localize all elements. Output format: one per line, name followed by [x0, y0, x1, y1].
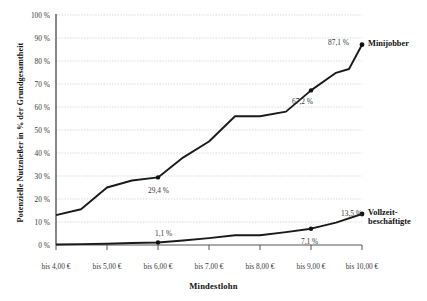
point-label-minijobber-67-2: 67,2 % — [292, 97, 313, 106]
series-label-vollzeit-line1: Vollzeit- — [368, 208, 397, 217]
point-label-minijobber-29-4: 29,4 % — [148, 186, 169, 195]
data-point-vollzeit-7-1 — [309, 227, 313, 231]
point-label-vollzeit-13-5: 13,5 % — [341, 209, 362, 218]
chart-container: Potenzielle Nutznießer in % der Grundges… — [0, 0, 427, 301]
data-point-vollzeit-1-1 — [156, 240, 160, 244]
x-axis-title: Mindestlohn — [0, 281, 427, 291]
point-label-vollzeit-7-1: 7,1 % — [301, 237, 318, 246]
series-label-minijobber: Minijobber — [368, 39, 409, 48]
point-label-vollzeit-1-1: 1,1 % — [155, 229, 172, 238]
series-label-vollzeit-line2: beschäftigte — [368, 217, 411, 226]
point-label-minijobber-87-1: 87,1 % — [328, 38, 349, 47]
plot-area — [0, 0, 427, 301]
data-point-minijobber-29-4 — [156, 175, 160, 179]
data-point-minijobber-87-1 — [360, 42, 365, 47]
series-label-vollzeitbeschaeftigte: Vollzeit- beschäftigte — [368, 208, 411, 227]
x-tick-label-6: bis 10,00 € — [331, 262, 393, 271]
data-point-minijobber-67-2 — [309, 88, 313, 92]
